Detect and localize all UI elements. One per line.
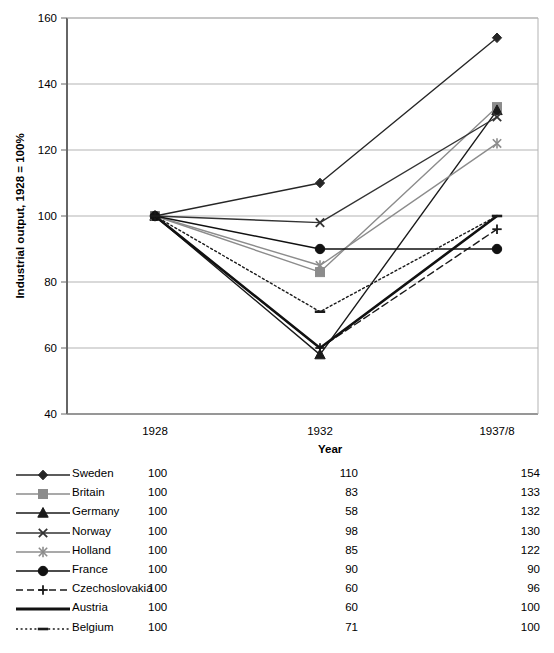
series-label: Britain — [72, 486, 105, 498]
value-1932: 60 — [278, 601, 358, 613]
data-point-marker-dash — [150, 215, 160, 218]
table-row[interactable]: France1009090 — [0, 561, 554, 580]
legend-swatch — [14, 561, 72, 580]
series-belgium — [150, 215, 502, 313]
legend-swatch-none-icon — [14, 599, 72, 618]
value-1932: 85 — [278, 544, 358, 556]
value-1937: 132 — [460, 505, 540, 517]
legend-swatch — [14, 484, 72, 503]
value-1932: 90 — [278, 563, 358, 575]
series-line — [155, 107, 497, 272]
series-label: Czechoslovakia — [72, 582, 153, 594]
y-tick-label: 80 — [44, 276, 57, 288]
legend-swatch — [14, 619, 72, 638]
y-axis-title: Industrial output, 1928 = 100% — [14, 133, 26, 298]
data-point-marker-circle — [492, 244, 501, 253]
legend-swatch-asterisk-icon — [14, 542, 72, 561]
value-1928: 100 — [148, 621, 167, 633]
y-tick-label: 120 — [38, 144, 57, 156]
value-1937: 122 — [460, 544, 540, 556]
series-label: Belgium — [72, 621, 114, 633]
series-norway — [151, 113, 501, 227]
x-axis-ticks: 192819321937/8 — [142, 425, 514, 437]
y-tick-label: 60 — [44, 342, 57, 354]
legend-swatch-x-icon — [14, 523, 72, 542]
value-1937: 100 — [460, 601, 540, 613]
data-point-marker-square — [39, 490, 48, 499]
data-point-marker-diamond — [38, 470, 47, 480]
series-label: France — [72, 563, 108, 575]
value-1932: 83 — [278, 486, 358, 498]
series-line — [155, 38, 497, 216]
data-point-marker-dash — [492, 215, 502, 218]
legend-swatch — [14, 465, 72, 484]
value-1932: 98 — [278, 525, 358, 537]
series-sweden — [150, 33, 501, 221]
data-point-marker-dash — [315, 310, 325, 313]
data-series-layer — [150, 33, 502, 359]
legend-swatch — [14, 599, 72, 618]
legend-swatch — [14, 542, 72, 561]
table-row[interactable]: Norway10098130 — [0, 523, 554, 542]
legend-swatch-dash-icon — [14, 619, 72, 638]
legend-swatch-circle-icon — [14, 561, 72, 580]
value-1928: 100 — [148, 582, 167, 594]
line-chart: 160140120100806040 192819321937/8 YearIn… — [0, 0, 554, 440]
table-row[interactable]: Germany10058132 — [0, 503, 554, 522]
data-point-marker-dash — [38, 627, 48, 630]
value-1937: 90 — [460, 563, 540, 575]
y-tick-label: 160 — [38, 12, 57, 24]
series-line — [155, 117, 497, 223]
axis-titles: YearIndustrial output, 1928 = 100% — [14, 133, 333, 440]
y-tick-label: 40 — [44, 408, 57, 420]
value-1928: 100 — [148, 486, 167, 498]
series-label: Austria — [72, 601, 108, 613]
table-row[interactable]: Belgium10071100 — [0, 619, 554, 638]
x-tick-label: 1932 — [307, 425, 333, 437]
value-1928: 100 — [148, 525, 167, 537]
legend-swatch-diamond-icon — [14, 465, 72, 484]
value-1937: 154 — [460, 467, 540, 479]
value-1928: 100 — [148, 544, 167, 556]
data-point-marker-plus — [38, 585, 47, 594]
legend-swatch — [14, 580, 72, 599]
legend-swatch — [14, 523, 72, 542]
legend-swatch-plus-icon — [14, 580, 72, 599]
value-1932: 58 — [278, 505, 358, 517]
series-label: Sweden — [72, 467, 114, 479]
chart-page: 160140120100806040 192819321937/8 YearIn… — [0, 0, 554, 653]
year-column-header: Year — [318, 443, 342, 455]
value-1928: 100 — [148, 467, 167, 479]
value-1932: 60 — [278, 582, 358, 594]
value-1937: 133 — [460, 486, 540, 498]
series-label: Germany — [72, 505, 119, 517]
legend-data-table: Year Sweden100110154Britain10083133Germa… — [0, 440, 554, 653]
value-1928: 100 — [148, 563, 167, 575]
table-row[interactable]: Holland10085122 — [0, 542, 554, 561]
x-tick-label: 1928 — [142, 425, 168, 437]
y-tick-label: 100 — [38, 210, 57, 222]
data-point-marker-circle — [38, 566, 47, 575]
table-header-row: Year — [0, 443, 554, 461]
value-1932: 71 — [278, 621, 358, 633]
chart-canvas: 160140120100806040 192819321937/8 YearIn… — [0, 0, 554, 440]
value-1937: 96 — [460, 582, 540, 594]
series-label: Norway — [72, 525, 111, 537]
value-1937: 130 — [460, 525, 540, 537]
legend-swatch-triangle-icon — [14, 503, 72, 522]
data-point-marker-asterisk — [316, 260, 324, 270]
table-row[interactable]: Sweden100110154 — [0, 465, 554, 484]
y-tick-label: 140 — [38, 78, 57, 90]
table-row[interactable]: Austria10060100 — [0, 599, 554, 618]
value-1932: 110 — [278, 467, 358, 479]
value-1928: 100 — [148, 505, 167, 517]
data-point-marker-plus — [492, 225, 501, 234]
x-tick-label: 1937/8 — [479, 425, 514, 437]
y-axis-ticks: 160140120100806040 — [38, 12, 67, 420]
series-label: Holland — [72, 544, 111, 556]
table-row[interactable]: Britain10083133 — [0, 484, 554, 503]
value-1937: 100 — [460, 621, 540, 633]
table-row[interactable]: Czechoslovakia1006096 — [0, 580, 554, 599]
data-point-marker-circle — [315, 244, 324, 253]
series-line — [155, 143, 497, 265]
